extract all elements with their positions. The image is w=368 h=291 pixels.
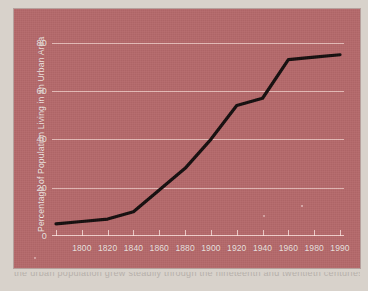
figure-caption: the urban population grew steadily throu…	[14, 272, 360, 291]
page-root: Percentage of Population Living in an Ur…	[0, 0, 368, 291]
x-tick-label-1940: 1940	[253, 243, 272, 253]
chart-figure-panel: Percentage of Population Living in an Ur…	[14, 9, 360, 268]
x-tick-label-1960: 1960	[279, 243, 298, 253]
y-tick-label-40: 40	[37, 134, 47, 144]
x-tick-label-1880: 1880	[175, 243, 194, 253]
y-tick-label-20: 20	[37, 183, 47, 193]
scan-speck	[263, 215, 265, 217]
x-tick-label-1990: 1990	[330, 243, 349, 253]
x-tick-label-1800: 1800	[72, 243, 91, 253]
y-tick-label-80: 80	[37, 38, 47, 48]
x-tick-label-1920: 1920	[227, 243, 246, 253]
x-tick-label-1980: 1980	[305, 243, 324, 253]
x-tick-label-1820: 1820	[98, 243, 117, 253]
x-tick-label-1840: 1840	[124, 243, 143, 253]
y-tick-label-60: 60	[37, 86, 47, 96]
series-line-urban-population	[56, 55, 340, 224]
x-tick-label-1860: 1860	[150, 243, 169, 253]
scan-speck	[301, 205, 303, 207]
x-tick-label-1900: 1900	[201, 243, 220, 253]
y-tick-label-0: 0	[42, 231, 47, 241]
scan-speck	[34, 257, 36, 259]
figure-caption-text: the urban population grew steadily throu…	[14, 272, 360, 279]
